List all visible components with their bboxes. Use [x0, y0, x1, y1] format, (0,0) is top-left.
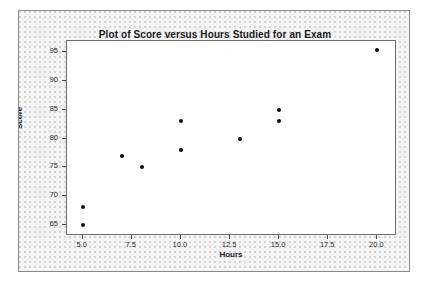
x-tick-label: 12.5	[216, 241, 242, 249]
x-tick-mark	[180, 235, 181, 239]
y-tick-label: 95	[38, 47, 58, 55]
x-tick-label: 17.5	[314, 241, 340, 249]
y-tick-label: 85	[38, 105, 58, 113]
data-point	[120, 154, 124, 158]
data-point	[277, 119, 281, 123]
y-tick-label: 65	[38, 220, 58, 228]
y-tick-label: 75	[38, 162, 58, 170]
data-point	[81, 223, 85, 227]
scatter-points-layer	[67, 41, 395, 234]
y-tick-label: 80	[38, 134, 58, 142]
x-tick-mark	[278, 235, 279, 239]
x-tick-mark	[229, 235, 230, 239]
x-tick-label: 5.0	[69, 241, 95, 249]
x-tick-label: 7.5	[118, 241, 144, 249]
x-tick-label: 10.0	[167, 241, 193, 249]
x-tick-mark	[131, 235, 132, 239]
x-axis-label: Hours	[66, 250, 396, 259]
x-tick-mark	[82, 235, 83, 239]
x-tick-mark	[376, 235, 377, 239]
data-point	[179, 148, 183, 152]
chart-title: Plot of Score versus Hours Studied for a…	[19, 29, 410, 40]
x-tick-label: 20.0	[363, 241, 389, 249]
plot-area	[66, 40, 396, 235]
y-tick-label: 70	[38, 191, 58, 199]
data-point	[238, 137, 242, 141]
x-tick-mark	[327, 235, 328, 239]
x-tick-label: 15.0	[265, 241, 291, 249]
data-point	[375, 48, 379, 52]
data-point	[277, 108, 281, 112]
data-point	[179, 119, 183, 123]
chart-panel: Plot of Score versus Hours Studied for a…	[18, 10, 410, 272]
data-point	[140, 165, 144, 169]
data-point	[81, 205, 85, 209]
y-tick-label: 90	[38, 76, 58, 84]
screenshot-root: Plot of Score versus Hours Studied for a…	[0, 0, 425, 284]
y-axis-label: Score	[18, 107, 24, 129]
